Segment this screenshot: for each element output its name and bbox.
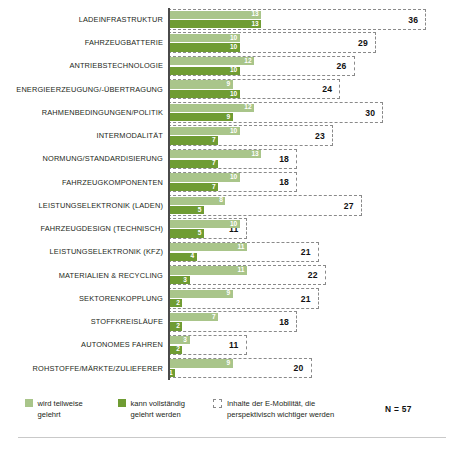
perspective-value: 21 <box>301 247 311 257</box>
bar-value-vollstaendig: 4 <box>191 253 197 260</box>
bar-teilweise: 3 <box>168 336 190 344</box>
legend-item-teilweise: wird teilweise gelehrt <box>25 398 115 420</box>
bar-value-teilweise: 12 <box>244 58 254 65</box>
perspective-value: 36 <box>408 15 418 25</box>
chart-row: LADEINFRASTRUKTUR361313 <box>0 8 463 31</box>
bars-zone: 361313 <box>168 8 463 31</box>
category-label: ENERGIEERZEUGUNG/-ÜBERTRAGUNG <box>0 86 168 93</box>
bar-teilweise: 11 <box>168 243 247 251</box>
chart-row: LEISTUNGSELEKTRONIK (KFZ)21114 <box>0 241 463 264</box>
category-label: FAHRZEUGDESIGN (TECHNISCH) <box>0 225 168 232</box>
dark-green-square-icon <box>118 399 126 407</box>
perspective-value: 20 <box>294 363 304 373</box>
bar-teilweise: 10 <box>168 220 240 228</box>
chart-row: SEKTORENKOPPLUNG2192 <box>0 287 463 310</box>
bar-value-vollstaendig: 2 <box>176 300 182 307</box>
bar-value-vollstaendig: 5 <box>198 230 204 237</box>
bar-vollstaendig: 9 <box>168 113 233 121</box>
bar-teilweise: 13 <box>168 150 261 158</box>
bar-teilweise: 11 <box>168 266 247 274</box>
bar-teilweise: 10 <box>168 127 240 135</box>
bars-zone: 2785 <box>168 194 463 217</box>
bar-teilweise: 9 <box>168 359 233 367</box>
chart-row: FAHRZEUGBATTERIE291010 <box>0 31 463 54</box>
bar-value-teilweise: 13 <box>251 151 261 158</box>
chart-row: FAHRZEUGKOMPONENTEN18107 <box>0 171 463 194</box>
perspective-value: 30 <box>365 108 375 118</box>
bar-value-vollstaendig: 10 <box>230 44 240 51</box>
chart-row: AUTONOMES FAHREN1132 <box>0 334 463 357</box>
perspective-value: 18 <box>279 317 289 327</box>
perspective-value: 18 <box>279 177 289 187</box>
bar-value-teilweise: 10 <box>230 128 240 135</box>
bar-value-vollstaendig: 5 <box>198 207 204 214</box>
perspective-value: 27 <box>344 201 354 211</box>
bar-value-vollstaendig: 10 <box>230 91 240 98</box>
category-label: RAHMENBEDINGUNGEN/POLITIK <box>0 109 168 116</box>
chart-row: FAHRZEUGDESIGN (TECHNISCH)11105 <box>0 217 463 240</box>
bar-vollstaendig: 4 <box>168 253 197 261</box>
perspective-value: 18 <box>279 154 289 164</box>
bar-vollstaendig: 13 <box>168 20 261 28</box>
bar-value-teilweise: 13 <box>251 11 261 18</box>
perspective-value: 29 <box>358 38 368 48</box>
bar-teilweise: 10 <box>168 173 240 181</box>
bars-zone: 2192 <box>168 287 463 310</box>
chart-row: ROHSTOFFE/MÄRKTE/ZULIEFERER2091 <box>0 357 463 380</box>
chart-row: ENERGIEERZEUGUNG/-ÜBERTRAGUNG24910 <box>0 78 463 101</box>
bars-zone: 22113 <box>168 264 463 287</box>
bar-vollstaendig: 7 <box>168 183 218 191</box>
category-label: SEKTORENKOPPLUNG <box>0 295 168 302</box>
category-label: LADEINFRASTRUKTUR <box>0 16 168 23</box>
legend-item-vollstaendig: kann vollständig gelehrt werden <box>118 398 210 420</box>
category-label: LEISTUNGSELEKTRONIK (LADEN) <box>0 202 168 209</box>
bars-zone: 2091 <box>168 357 463 380</box>
perspective-value: 22 <box>308 270 318 280</box>
bar-teilweise: 9 <box>168 80 233 88</box>
bar-teilweise: 7 <box>168 313 218 321</box>
bars-zone: 11105 <box>168 217 463 240</box>
y-axis-spine <box>168 8 170 380</box>
bar-vollstaendig: 10 <box>168 67 240 75</box>
bars-zone: 30129 <box>168 101 463 124</box>
category-label: ROHSTOFFE/MÄRKTE/ZULIEFERER <box>0 365 168 372</box>
bar-value-teilweise: 11 <box>237 244 246 251</box>
chart-row: RAHMENBEDINGUNGEN/POLITIK30129 <box>0 101 463 124</box>
category-label: INTERMODALITÄT <box>0 132 168 139</box>
chart-row: MATERIALIEN & RECYCLING22113 <box>0 264 463 287</box>
bar-vollstaendig: 3 <box>168 276 190 284</box>
category-label: FAHRZEUGBATTERIE <box>0 39 168 46</box>
bar-value-teilweise: 10 <box>230 174 240 181</box>
bar-teilweise: 10 <box>168 34 240 42</box>
bars-zone: 1132 <box>168 334 463 357</box>
bar-value-teilweise: 7 <box>212 314 218 321</box>
bar-vollstaendig: 2 <box>168 299 182 307</box>
bar-teilweise: 12 <box>168 57 254 65</box>
bar-value-vollstaendig: 7 <box>212 137 218 144</box>
bar-value-teilweise: 9 <box>226 360 232 367</box>
bars-zone: 23107 <box>168 124 463 147</box>
chart-legend: wird teilweise gelehrt kann vollständig … <box>0 392 463 434</box>
bars-zone: 24910 <box>168 78 463 101</box>
light-green-square-icon <box>25 399 33 407</box>
bar-value-teilweise: 9 <box>226 290 232 297</box>
bar-value-teilweise: 9 <box>226 81 232 88</box>
bar-value-vollstaendig: 7 <box>212 160 218 167</box>
bottom-divider <box>18 437 446 438</box>
bars-zone: 291010 <box>168 31 463 54</box>
perspective-value: 21 <box>301 294 311 304</box>
legend-item-perspektivisch: Inhalte der E-Mobilität, die perspektivi… <box>213 398 378 420</box>
bar-value-teilweise: 3 <box>183 337 189 344</box>
bars-zone: 261210 <box>168 55 463 78</box>
bar-value-teilweise: 12 <box>244 104 254 111</box>
bar-teilweise: 8 <box>168 197 225 205</box>
bar-teilweise: 13 <box>168 11 261 19</box>
perspective-value: 11 <box>229 340 238 350</box>
bar-value-vollstaendig: 9 <box>226 114 232 121</box>
bar-value-teilweise: 11 <box>237 267 246 274</box>
bar-value-vollstaendig: 10 <box>230 67 240 74</box>
sample-size-label: N = 57 <box>385 404 412 414</box>
category-label: STOFFKREISLÄUFE <box>0 318 168 325</box>
chart-row: INTERMODALITÄT23107 <box>0 124 463 147</box>
chart-row: ANTRIEBSTECHNOLOGIE261210 <box>0 55 463 78</box>
